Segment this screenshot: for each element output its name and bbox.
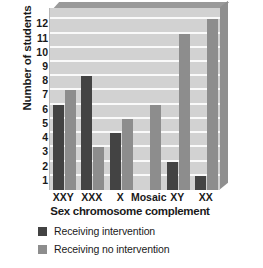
bar [167,162,178,190]
x-axis-title: Sex chromosome complement [30,205,230,217]
adjacent-chart-crop: Number of students [247,0,263,268]
bar [110,133,121,190]
bar [207,19,218,190]
x-axis-tick-label: XXX [81,191,102,204]
plot-panel-right-bevel [220,1,228,190]
bars-layer [50,8,220,190]
x-axis-tick-label: XX [199,191,213,204]
bar [122,119,133,190]
plot-area [49,8,220,190]
bar [195,176,206,190]
x-axis-tick-label: Mosaic [131,191,167,204]
legend-item-intervention: Receiving intervention [38,222,169,240]
x-axis-tick-label: XXY [53,191,74,204]
x-axis-tick-labels: XXYXXXXMosaicXYXX [49,191,220,205]
legend-label-no-intervention: Receiving no intervention [54,243,169,255]
x-axis-tick-label: XY [170,191,184,204]
chart-legend: Receiving intervention Receiving no inte… [38,222,169,258]
bar [65,90,76,190]
bar [53,105,64,190]
legend-swatch-no-intervention [38,245,47,254]
bar [93,147,104,190]
bar [150,105,161,190]
y-axis-tick-labels: 123456789101112 [28,12,48,190]
legend-item-no-intervention: Receiving no intervention [38,240,169,258]
bar-chart-figure: Number of students 123456789101112 XXYXX… [0,0,263,268]
legend-swatch-intervention [38,227,47,236]
bar [81,76,92,190]
legend-label-intervention: Receiving intervention [54,225,155,237]
bar [179,34,190,190]
x-axis-tick-label: X [117,191,124,204]
